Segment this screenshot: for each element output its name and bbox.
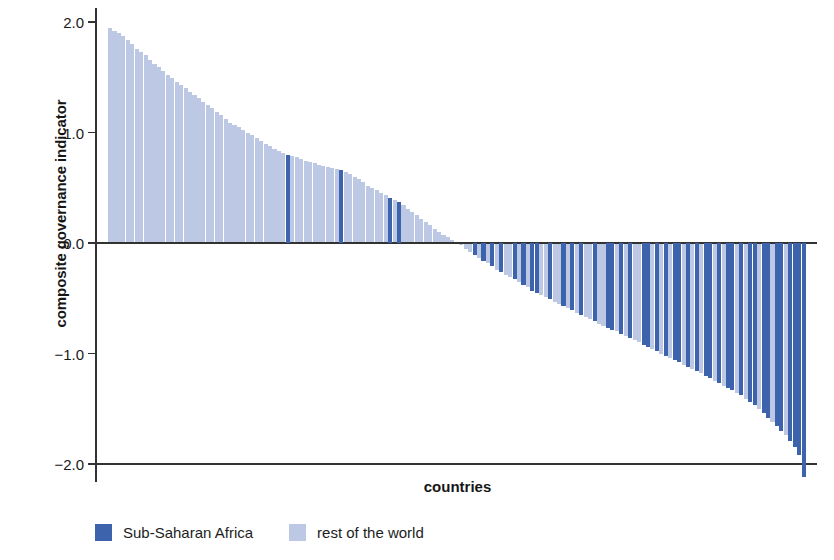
y-axis-tick-labels: 2.01.00.0−1.0−2.0 xyxy=(36,0,84,560)
bar xyxy=(646,243,650,347)
bar xyxy=(695,243,699,371)
bar xyxy=(495,243,499,270)
bar xyxy=(486,243,490,263)
legend-entry-row[interactable]: rest of the world xyxy=(289,524,424,541)
y-tick-mark xyxy=(88,353,96,355)
bar xyxy=(170,78,174,243)
y-tick-mark xyxy=(88,21,96,23)
bar xyxy=(473,243,477,255)
bar xyxy=(139,52,143,243)
bar xyxy=(753,243,757,405)
legend-swatch-ssa xyxy=(95,524,112,541)
bar xyxy=(428,225,432,243)
bar xyxy=(802,243,806,477)
bottom-axis-line xyxy=(95,463,817,465)
bar xyxy=(597,243,601,324)
bar xyxy=(539,243,543,295)
bar xyxy=(388,198,392,243)
bar-series xyxy=(108,0,820,500)
bar xyxy=(406,209,410,243)
bar xyxy=(157,67,161,243)
bar xyxy=(628,243,632,338)
bar xyxy=(788,243,792,441)
y-tick-label: 0.0 xyxy=(36,235,84,252)
bar xyxy=(361,182,365,243)
bar xyxy=(499,243,503,272)
bar xyxy=(179,85,183,243)
chart-legend: Sub-Saharan Africarest of the world xyxy=(95,524,424,541)
legend-swatch-row xyxy=(289,524,306,541)
bar xyxy=(619,243,623,334)
bar xyxy=(348,174,352,243)
bar xyxy=(197,98,201,243)
bar xyxy=(606,243,610,328)
bar xyxy=(281,153,285,243)
bar xyxy=(561,243,565,306)
bar xyxy=(655,243,659,351)
bar xyxy=(290,156,294,243)
bar xyxy=(797,243,801,455)
bar xyxy=(415,215,419,243)
bar xyxy=(424,222,428,243)
legend-entry-ssa[interactable]: Sub-Saharan Africa xyxy=(95,524,253,541)
bar xyxy=(570,243,574,310)
bar xyxy=(264,144,268,243)
bar xyxy=(130,44,134,243)
bar xyxy=(513,243,517,279)
bar xyxy=(704,243,708,376)
bar xyxy=(677,243,681,362)
bar xyxy=(722,243,726,386)
bar xyxy=(304,161,308,243)
bar xyxy=(295,157,299,243)
bar xyxy=(272,149,276,243)
bar xyxy=(286,155,290,243)
bar xyxy=(490,243,494,266)
bar xyxy=(188,92,192,243)
bar xyxy=(770,243,774,422)
y-axis-line xyxy=(95,8,97,482)
bar xyxy=(766,243,770,418)
bar xyxy=(530,243,534,291)
bar xyxy=(673,243,677,360)
bar xyxy=(464,243,468,249)
bar xyxy=(330,168,334,243)
bar xyxy=(148,60,152,243)
bar xyxy=(357,179,361,243)
bar xyxy=(615,243,619,331)
bar xyxy=(112,31,116,243)
bar xyxy=(246,133,250,244)
bar xyxy=(313,163,317,243)
bar xyxy=(713,243,717,381)
bar xyxy=(535,243,539,293)
bar xyxy=(708,243,712,378)
y-tick-mark xyxy=(88,132,96,134)
legend-label-row: rest of the world xyxy=(317,524,424,541)
bar xyxy=(237,127,241,243)
bar xyxy=(504,243,508,275)
y-tick-label: 1.0 xyxy=(36,124,84,141)
bar xyxy=(762,243,766,413)
bar xyxy=(232,125,236,243)
bar xyxy=(664,243,668,356)
y-tick-label: −1.0 xyxy=(36,345,84,362)
plot-area: countries xyxy=(95,0,820,500)
bar xyxy=(739,243,743,395)
bar xyxy=(686,243,690,367)
y-tick-label: −2.0 xyxy=(36,456,84,473)
bar xyxy=(593,243,597,321)
x-axis-label: countries xyxy=(95,478,820,495)
bar xyxy=(224,119,228,243)
legend-label-ssa: Sub-Saharan Africa xyxy=(123,524,253,541)
bar xyxy=(121,36,125,243)
bar xyxy=(166,75,170,243)
bar xyxy=(481,243,485,261)
bar xyxy=(744,243,748,399)
bar xyxy=(321,166,325,243)
bar xyxy=(521,243,525,285)
bar xyxy=(339,170,343,243)
bar xyxy=(255,138,259,243)
bar xyxy=(553,243,557,302)
bar xyxy=(397,202,401,243)
bar xyxy=(588,243,592,319)
governance-indicator-chart: composite governance indicator 2.01.00.0… xyxy=(0,0,834,560)
